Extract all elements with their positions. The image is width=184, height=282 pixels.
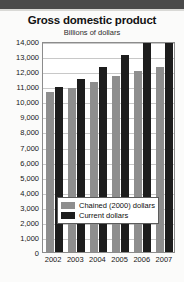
chart-legend: Chained (2000) dollars Current dollars (57, 197, 159, 224)
y-axis-tick-label: 14,000 (0, 38, 39, 47)
bar-chained-2002 (46, 92, 54, 252)
y-axis-tick-label: 0 (0, 249, 39, 258)
header-rule (0, 0, 184, 9)
x-axis-tick-label: 2004 (86, 255, 108, 264)
x-axis-tick-label: 2007 (153, 255, 175, 264)
legend-item-chained: Chained (2000) dollars (61, 201, 155, 210)
header-rule-shadow (0, 9, 184, 11)
bar-chained-2004 (90, 82, 98, 252)
y-axis-tick-label: 4,000 (0, 189, 39, 198)
y-axis-tick-label: 9,000 (0, 113, 39, 122)
y-axis-tick-label: 5,000 (0, 174, 39, 183)
chart-title: Gross domestic product (0, 14, 184, 27)
legend-label-current: Current dollars (79, 212, 128, 220)
y-axis-tick-label: 13,000 (0, 53, 39, 62)
legend-label-chained: Chained (2000) dollars (79, 202, 155, 210)
bar-current-2007 (165, 43, 173, 252)
bar-current-2004 (99, 67, 107, 252)
y-axis-tick-label: 8,000 (0, 128, 39, 137)
legend-swatch-chained-icon (61, 202, 75, 209)
bar-chained-2005 (112, 76, 120, 252)
y-axis-tick-label: 12,000 (0, 68, 39, 77)
y-axis-tick-label: 1,000 (0, 234, 39, 243)
x-axis-tick-label: 2006 (131, 255, 153, 264)
y-axis-tick-label: 2,000 (0, 219, 39, 228)
y-axis-tick-label: 6,000 (0, 159, 39, 168)
x-axis-tick-label: 2003 (64, 255, 86, 264)
bar-current-2003 (77, 79, 85, 253)
x-axis-tick-label: 2005 (109, 255, 131, 264)
y-axis-tick-label: 11,000 (0, 83, 39, 92)
bar-current-2002 (55, 87, 63, 252)
x-axis-tick-label: 2002 (42, 255, 64, 264)
bar-chained-2007 (156, 67, 164, 252)
y-axis-tick-label: 7,000 (0, 144, 39, 153)
y-axis-tick-label: 10,000 (0, 98, 39, 107)
bar-chained-2003 (68, 88, 76, 252)
gdp-bar-chart-figure: Gross domestic product Billions of dolla… (0, 0, 184, 282)
legend-item-current: Current dollars (61, 211, 155, 220)
bar-chained-2006 (134, 71, 142, 252)
chart-subtitle: Billions of dollars (0, 28, 184, 37)
y-axis-tick-label: 3,000 (0, 204, 39, 213)
legend-swatch-current-icon (61, 212, 75, 219)
